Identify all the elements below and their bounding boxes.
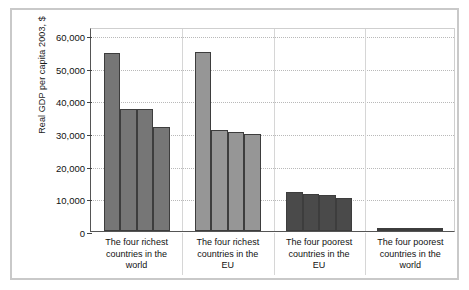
x-category-label-line: countries in the bbox=[182, 249, 273, 261]
bar-g3-1 bbox=[286, 192, 303, 231]
bar-g1-4 bbox=[153, 127, 170, 231]
bar-g2-1 bbox=[195, 52, 212, 231]
x-category-label-line: countries in the bbox=[274, 249, 365, 261]
bar-g2-2 bbox=[211, 130, 228, 231]
gridline-5 bbox=[91, 70, 454, 71]
bar-g3-4 bbox=[336, 198, 353, 231]
x-category-label-line: The four poorest bbox=[274, 237, 365, 249]
x-category-label-line: The four poorest bbox=[365, 237, 456, 249]
y-tick-label-6: 60,000 bbox=[56, 32, 85, 43]
tick-mark-6 bbox=[87, 37, 92, 38]
group-separator-1 bbox=[182, 29, 183, 231]
x-category-label-line: world bbox=[365, 260, 456, 272]
x-category-label-3: The four poorestcountries in theEU bbox=[274, 237, 365, 272]
y-tick-label-4: 40,000 bbox=[56, 97, 85, 108]
x-category-label-line: EU bbox=[182, 260, 273, 272]
x-category-label-line: countries in the bbox=[365, 249, 456, 261]
tick-mark-5 bbox=[87, 70, 92, 71]
x-category-label-line: countries in the bbox=[91, 249, 182, 261]
bar-g4-4 bbox=[427, 228, 444, 231]
y-tick-label-3: 30,000 bbox=[56, 130, 85, 141]
y-tick-label-1: 10,000 bbox=[56, 195, 85, 206]
bar-g4-1 bbox=[377, 228, 394, 231]
tick-mark-3 bbox=[87, 135, 92, 136]
bar-g4-2 bbox=[394, 228, 411, 231]
tick-mark-0 bbox=[87, 233, 92, 234]
x-category-label-1: The four richestcountries in theworld bbox=[91, 237, 182, 272]
bar-g3-2 bbox=[303, 194, 320, 231]
x-category-label-line: The four richest bbox=[182, 237, 273, 249]
plot-inner: 010,00020,00030,00040,00050,00060,000 Th… bbox=[91, 29, 454, 231]
x-category-label-line: world bbox=[91, 260, 182, 272]
tick-mark-2 bbox=[87, 168, 92, 169]
gridline-4 bbox=[91, 102, 454, 103]
tick-mark-4 bbox=[87, 102, 92, 103]
x-category-label-4: The four poorestcountries in theworld bbox=[365, 237, 456, 272]
gridline-6 bbox=[91, 37, 454, 38]
x-category-label-line: The four richest bbox=[91, 237, 182, 249]
plot-area: 010,00020,00030,00040,00050,00060,000 Th… bbox=[90, 28, 455, 232]
y-tick-label-2: 20,000 bbox=[56, 162, 85, 173]
x-category-label-2: The four richestcountries in theEU bbox=[182, 237, 273, 272]
bar-g2-4 bbox=[244, 134, 261, 231]
bar-g1-3 bbox=[137, 109, 154, 231]
y-axis-title: Real GDP per capita 2003, $ bbox=[37, 0, 47, 165]
bar-g4-3 bbox=[410, 228, 427, 231]
group-separator-3 bbox=[365, 29, 366, 231]
bar-g1-2 bbox=[120, 109, 137, 232]
y-tick-label-0: 0 bbox=[80, 228, 85, 239]
x-category-label-line: EU bbox=[274, 260, 365, 272]
tick-mark-1 bbox=[87, 200, 92, 201]
bar-g3-3 bbox=[319, 195, 336, 231]
y-tick-label-5: 50,000 bbox=[56, 64, 85, 75]
bar-g2-3 bbox=[228, 132, 245, 231]
figure-frame: Real GDP per capita 2003, $ 010,00020,00… bbox=[10, 8, 459, 280]
group-separator-2 bbox=[274, 29, 275, 231]
bar-g1-1 bbox=[104, 53, 121, 231]
